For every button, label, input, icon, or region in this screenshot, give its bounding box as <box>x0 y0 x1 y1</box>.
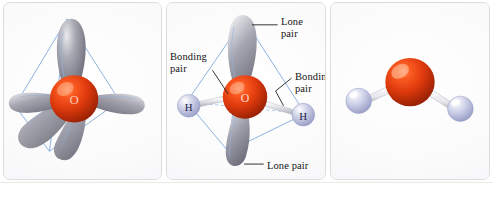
hydrogen-label-right: H <box>299 110 307 122</box>
label-lone-pair-top-line2: pair <box>281 28 303 40</box>
hydrogen-sphere-left-c <box>346 88 372 113</box>
caption-strip: a b c <box>0 183 493 207</box>
label-bonding-pair-right-line2: pair <box>295 83 326 95</box>
hydrogen-label-left: H <box>185 101 193 113</box>
oxygen-sphere-c <box>385 58 434 106</box>
label-bonding-pair-right-line1: Bonding <box>295 71 326 82</box>
label-lone-pair-top-line1: Lone <box>281 16 303 27</box>
label-lone-pair-bottom: Lone pair <box>267 160 308 172</box>
panel-a-diagram: O <box>4 3 161 179</box>
label-bonding-pair-left-line1: Bonding <box>170 51 207 62</box>
panel-a: O <box>3 2 162 180</box>
hydrogen-atom-left: H <box>177 94 200 117</box>
hydrogen-sphere-right-c <box>448 96 474 121</box>
label-lone-pair-top: Lone pair <box>281 16 303 39</box>
oxygen-atom-a: O <box>50 75 98 122</box>
oxygen-label-a: O <box>69 93 78 107</box>
oxygen-atom-b: O <box>223 75 267 118</box>
oxygen-label-b: O <box>241 91 250 105</box>
label-bonding-pair-right: Bonding pair <box>295 71 326 94</box>
panel-b: O H H <box>166 2 326 180</box>
label-bonding-pair-left-line2: pair <box>170 63 207 75</box>
label-bonding-pair-left: Bonding pair <box>170 51 207 74</box>
panel-c-diagram <box>331 3 489 179</box>
panel-c <box>330 2 490 180</box>
hydrogen-atom-right: H <box>292 103 315 126</box>
water-structure-figure: O <box>0 0 493 207</box>
